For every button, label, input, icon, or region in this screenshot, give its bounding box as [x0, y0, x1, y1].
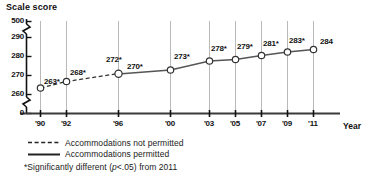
- legend-item-not-permitted: Accommodations not permitted: [26, 137, 184, 148]
- legend-swatch-dashed: [26, 138, 60, 148]
- data-point: [37, 85, 43, 91]
- legend-label: Accommodations permitted: [65, 149, 169, 159]
- data-label: 281*: [263, 39, 279, 48]
- y-tick-label: 0: [0, 108, 24, 117]
- data-label: 273*: [174, 52, 190, 61]
- y-tick-label: 290: [0, 32, 24, 41]
- data-point: [310, 46, 316, 52]
- gridlines: [41, 21, 314, 113]
- y-tick-label: 500: [0, 16, 24, 25]
- y-tick-label: 270: [0, 70, 24, 79]
- x-tick-label: '92: [51, 119, 81, 128]
- data-label: 272*: [106, 55, 122, 64]
- chart-footnote: *Significantly different (p<.05) from 20…: [24, 162, 177, 172]
- data-point: [206, 58, 212, 64]
- x-axis-title: Year: [343, 121, 361, 131]
- chart-legend: Accommodations not permitted Accommodati…: [26, 137, 184, 159]
- data-point: [232, 56, 238, 62]
- y-axis: [23, 19, 30, 114]
- legend-label: Accommodations not permitted: [65, 138, 184, 148]
- data-label: 278*: [211, 44, 227, 53]
- legend-swatch-solid: [26, 149, 60, 159]
- footnote-suffix: <.05) from 2011: [117, 162, 177, 172]
- data-point: [284, 49, 290, 55]
- y-tick-label: 260: [0, 89, 24, 98]
- x-tick-label: '11: [298, 119, 328, 128]
- y-tick-label: 280: [0, 51, 24, 60]
- data-label: 284: [320, 37, 333, 46]
- legend-item-permitted: Accommodations permitted: [26, 148, 184, 159]
- data-label: 279*: [237, 42, 253, 51]
- chart-container: Scale score: [0, 0, 375, 178]
- data-point: [63, 78, 69, 84]
- x-tick-label: '00: [155, 119, 185, 128]
- data-label: 268*: [70, 68, 86, 77]
- data-label: 263*: [44, 77, 60, 86]
- data-point: [115, 70, 122, 77]
- footnote-prefix: *Significantly different (: [24, 162, 112, 172]
- data-label: 283*: [289, 36, 305, 45]
- x-tick-label: '96: [103, 119, 133, 128]
- data-label: 270*: [127, 62, 143, 71]
- data-point: [167, 67, 173, 73]
- data-point: [258, 52, 264, 58]
